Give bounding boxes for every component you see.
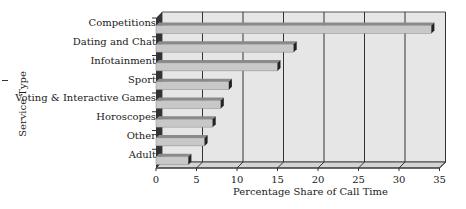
x-tick-label: 20 — [312, 174, 325, 185]
x-tick-label: 10 — [231, 174, 244, 185]
x-tick-label: 15 — [271, 174, 284, 185]
x-tick-label: 0 — [153, 174, 159, 185]
category-label: Voting & Interactive Games — [15, 92, 156, 103]
category-label: Other — [127, 130, 156, 141]
x-tick-label: 30 — [393, 174, 406, 185]
category-label: Horoscopes — [96, 111, 156, 122]
category-label: Sport — [128, 74, 156, 85]
margin-mark — [2, 80, 8, 81]
category-label: Infotainment — [90, 55, 156, 66]
y-axis-title: Service Type — [17, 71, 28, 137]
x-tick-label: 25 — [352, 174, 365, 185]
category-label: Competitions — [89, 17, 157, 28]
category-label: Dating and Chat — [73, 36, 156, 47]
x-axis-title: Percentage Share of Call Time — [233, 186, 388, 197]
x-tick-label: 35 — [433, 174, 446, 185]
category-label: Adult — [129, 149, 156, 160]
x-tick-label: 5 — [193, 174, 199, 185]
